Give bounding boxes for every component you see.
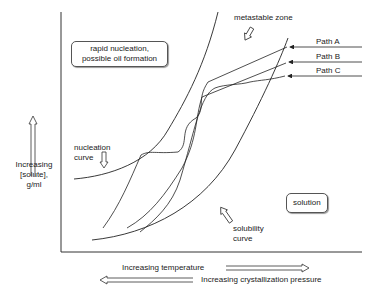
x-axis-temperature-label: Increasing temperature — [122, 263, 204, 273]
pressure-arrow-icon — [100, 276, 193, 284]
path-b-label: Path B — [316, 52, 340, 62]
solubility-curve-label: solubility curve — [233, 224, 264, 244]
y-axis-line3: g/ml — [12, 180, 56, 190]
solubility-arrow-icon — [217, 205, 234, 224]
solubility-curve — [92, 38, 288, 240]
temperature-arrow-icon — [226, 264, 309, 272]
solution-box: solution — [286, 193, 328, 213]
rapid-nucleation-line2: possible oil formation — [77, 54, 162, 64]
nucleation-curve-label: nucleation curve — [74, 143, 110, 163]
solubility-curve-line1: solubility — [233, 224, 264, 234]
nucleation-curve-line2: curve — [74, 153, 110, 163]
path-c-curve — [140, 76, 285, 232]
metastable-arrow-icon — [242, 26, 256, 42]
path-a-label: Path A — [316, 37, 340, 47]
path-c-label: Path C — [316, 66, 340, 76]
rapid-nucleation-line1: rapid nucleation, — [77, 44, 162, 54]
nucleation-curve-line1: nucleation — [74, 143, 110, 153]
path-b-curve — [127, 63, 286, 228]
rapid-nucleation-box: rapid nucleation, possible oil formation — [71, 41, 168, 67]
x-axis-pressure-label: Increasing crystallization pressure — [201, 275, 322, 285]
metastable-zone-label: metastable zone — [234, 13, 293, 23]
solubility-curve-line2: curve — [233, 234, 264, 244]
y-axis-line2: [solute], — [12, 170, 56, 180]
y-axis-label: Increasing [solute], g/ml — [12, 160, 56, 190]
y-axis-line1: Increasing — [12, 160, 56, 170]
solution-label: solution — [293, 198, 321, 207]
